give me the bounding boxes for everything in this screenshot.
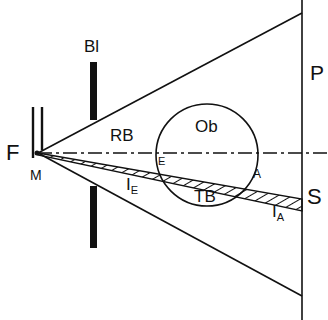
lower-ray xyxy=(38,153,302,296)
source-sub-label: M xyxy=(30,168,42,182)
ray-entry-sub: E xyxy=(131,184,138,196)
aperture-upper-bar xyxy=(90,62,97,120)
aperture-lower-bar xyxy=(90,186,97,248)
test-beam-hatched xyxy=(38,153,302,211)
source-point xyxy=(35,151,40,156)
ray-exit-sub: A xyxy=(277,211,284,223)
optical-diagram: F M Bl RB Ob TB P S E A IE IA xyxy=(0,0,328,320)
exit-point-label: A xyxy=(253,168,261,180)
source-label: F xyxy=(6,142,19,164)
object-label: Ob xyxy=(195,118,218,135)
plate-label: P xyxy=(310,62,324,83)
screen-point-label: S xyxy=(307,186,322,208)
upper-ray xyxy=(38,13,302,153)
ray-exit-label: IA xyxy=(272,203,284,223)
ray-entry-label: IE xyxy=(126,176,138,196)
test-beam-label: TB xyxy=(194,188,216,205)
aperture-label: Bl xyxy=(84,38,99,55)
entry-point-label: E xyxy=(158,156,165,167)
reference-beam-label: RB xyxy=(110,127,134,144)
